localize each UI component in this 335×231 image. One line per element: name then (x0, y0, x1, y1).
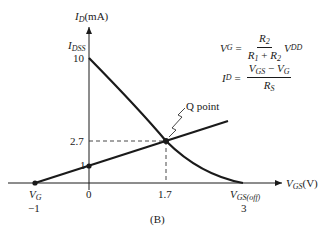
figure-label: (B) (150, 214, 165, 225)
x-tick-0: 0 (86, 189, 92, 200)
vg-point (32, 180, 37, 185)
y-tick-10: 10 (73, 53, 84, 64)
x-tick-1-7: 1.7 (158, 189, 172, 200)
q-point-leader (169, 108, 185, 137)
vg-label: VG (29, 189, 42, 202)
x-axis-label: VGS(V) (286, 178, 318, 191)
x-tick-3: 3 (241, 203, 247, 214)
y-axis-label: ID(mA) (75, 11, 108, 24)
vgsoff-label: VGS(off) (230, 189, 260, 202)
x-tick-neg1: −1 (28, 203, 40, 214)
bias-line (35, 121, 228, 183)
y-tick-1: 1 (80, 160, 86, 171)
equation-id: ID = VGS − VG RS (222, 62, 294, 93)
one-ma-point (86, 163, 91, 168)
y-tick-2-7: 2.7 (70, 136, 84, 147)
equation-vg: VG = R2 R1 + R2 VDD (220, 32, 302, 63)
q-point-label: Q point (186, 101, 219, 112)
q-point (163, 138, 169, 144)
